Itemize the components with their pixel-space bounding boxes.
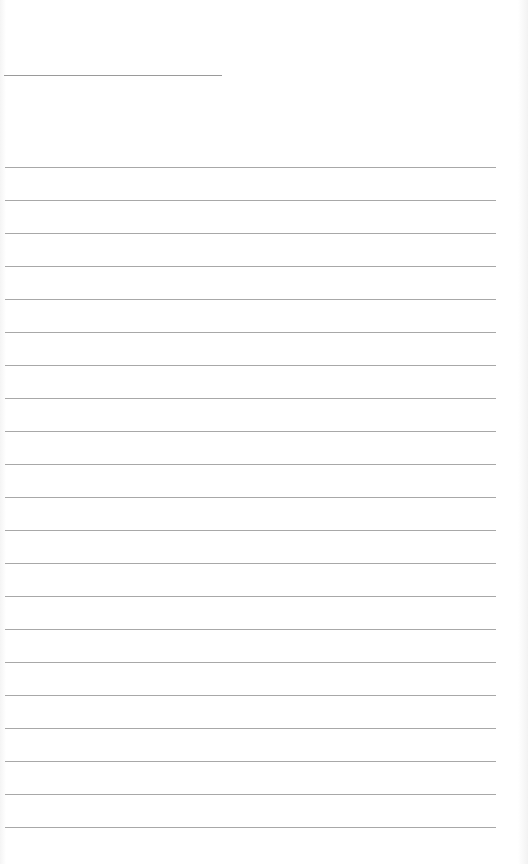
ruled-line [5, 365, 496, 366]
ruled-line [5, 629, 496, 630]
ruled-line [5, 398, 496, 399]
ruled-line [5, 695, 496, 696]
ruled-line [5, 431, 496, 432]
ruled-line [5, 167, 496, 168]
title-line [4, 75, 222, 76]
ruled-line [5, 827, 496, 828]
ruled-line [5, 497, 496, 498]
ruled-line [5, 266, 496, 267]
notepad-page [0, 0, 528, 864]
ruled-line [5, 200, 496, 201]
ruled-line [5, 761, 496, 762]
ruled-line [5, 464, 496, 465]
ruled-line [5, 332, 496, 333]
ruled-line [5, 596, 496, 597]
ruled-line [5, 728, 496, 729]
ruled-line [5, 563, 496, 564]
ruled-line [5, 662, 496, 663]
ruled-line [5, 299, 496, 300]
ruled-line [5, 794, 496, 795]
ruled-line [5, 233, 496, 234]
ruled-line [5, 530, 496, 531]
